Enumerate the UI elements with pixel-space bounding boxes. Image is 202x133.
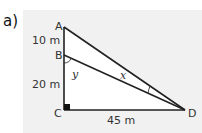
point-A-label: A: [55, 20, 63, 33]
angle-x-label: x: [120, 69, 127, 82]
length-BC-label: 20 m: [32, 78, 60, 91]
right-angle-marker: [64, 104, 70, 110]
point-D-label: D: [188, 107, 196, 120]
length-CD-label: 45 m: [107, 114, 135, 127]
point-B-label: B: [55, 49, 63, 62]
triangle-diagram: A B C D 10 m 20 m 45 m y x: [0, 0, 202, 133]
length-AB-label: 10 m: [32, 34, 60, 47]
point-C-label: C: [54, 107, 62, 120]
angle-y-label: y: [71, 68, 79, 81]
